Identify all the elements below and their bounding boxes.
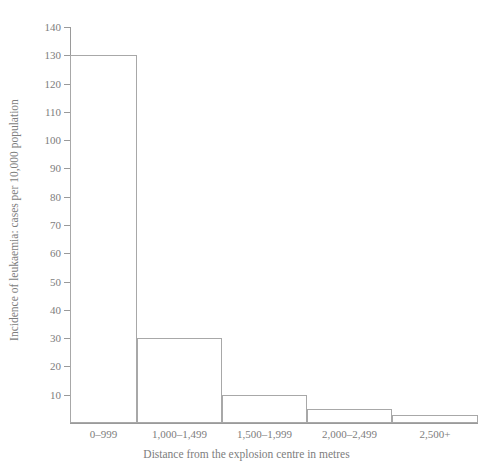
y-axis-tick-label: 10 (50, 389, 61, 400)
y-axis-tick-label: 80 (50, 191, 61, 202)
x-axis-tick-label: 1,000–1,499 (137, 429, 222, 440)
y-axis-tick-label: 50 (50, 276, 61, 287)
bar (222, 395, 307, 423)
y-axis-tick-mark (64, 27, 70, 28)
y-axis-tick-label: 60 (50, 248, 61, 259)
y-axis-tick-label: 100 (45, 135, 62, 146)
y-axis-tick-label: 110 (45, 106, 61, 117)
bar (307, 409, 392, 423)
y-axis-tick-label: 40 (50, 304, 61, 315)
plot-area: 102030405060708090100110120130140 (70, 27, 478, 423)
y-axis-tick-label: 70 (50, 220, 61, 231)
x-axis-tick-label: 2,500+ (392, 429, 478, 440)
y-axis-tick-label: 130 (45, 50, 62, 61)
bar (70, 55, 137, 423)
y-axis-tick-label: 140 (45, 22, 62, 33)
histogram-figure: 102030405060708090100110120130140 0–9991… (0, 0, 493, 470)
y-axis-tick-label: 90 (50, 163, 61, 174)
x-axis-title: Distance from the explosion centre in me… (0, 448, 493, 460)
y-axis-tick-label: 120 (45, 78, 62, 89)
x-axis-tick-label: 2,000–2,499 (307, 429, 392, 440)
x-axis-line (70, 423, 478, 424)
bar (137, 338, 222, 423)
y-axis-tick-label: 20 (50, 361, 61, 372)
x-axis-tick-label: 1,500–1,999 (222, 429, 307, 440)
x-axis-tick-label: 0–999 (70, 429, 137, 440)
bar (392, 415, 478, 423)
y-axis-title: Incidence of leukaemia: cases per 10,000… (8, 10, 20, 430)
y-axis-tick-label: 30 (50, 333, 61, 344)
